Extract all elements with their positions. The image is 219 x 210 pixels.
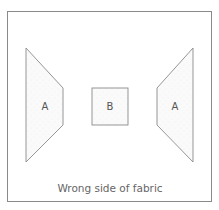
piece-a-right-label: A <box>172 101 179 112</box>
piece-a-left-label: A <box>42 101 49 112</box>
piece-b: B <box>92 88 128 125</box>
caption: Wrong side of fabric <box>57 182 162 194</box>
fabric-diagram: A B A Wrong side of fabric <box>0 0 219 210</box>
piece-b-label: B <box>107 101 114 112</box>
